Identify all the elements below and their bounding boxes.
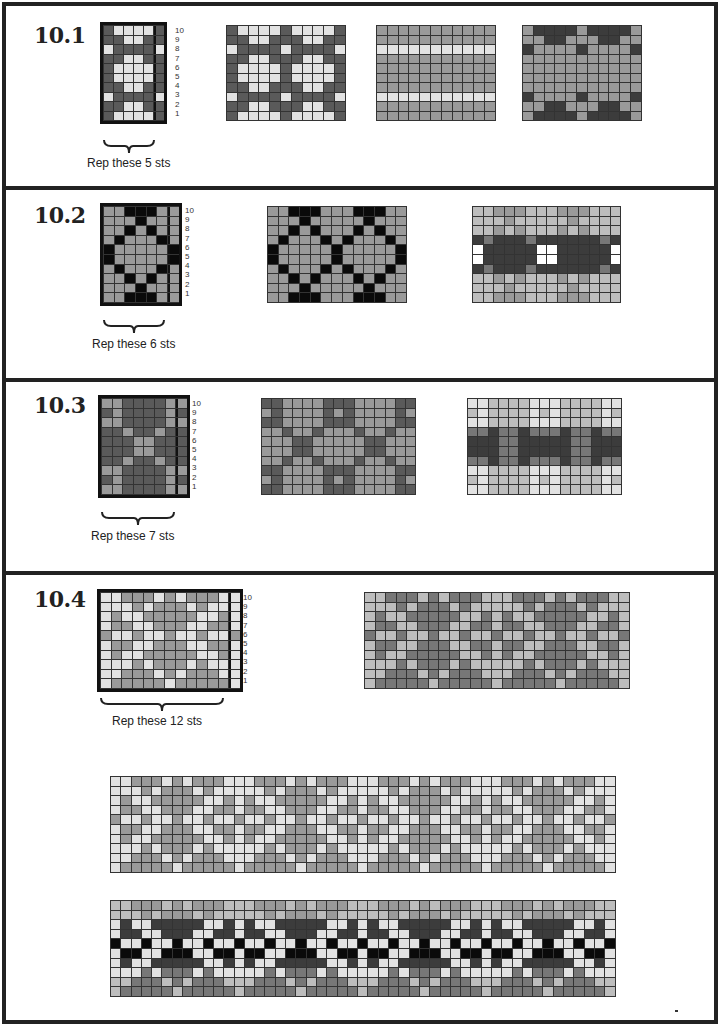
grid-cell — [609, 612, 619, 621]
grid-cell — [442, 74, 452, 83]
grid-cell — [268, 293, 278, 302]
grid-cell — [420, 777, 429, 786]
grid-cell — [513, 806, 522, 815]
grid-cell — [183, 901, 192, 910]
grid-cell — [124, 26, 133, 35]
grid-cell — [227, 74, 237, 83]
grid-cell — [154, 660, 164, 669]
grid-cell — [482, 825, 491, 834]
grid-cell — [581, 466, 590, 475]
grid-cell — [396, 466, 405, 475]
grid-cell — [317, 787, 326, 796]
grid-cell — [489, 457, 498, 466]
grid-cell — [235, 930, 244, 939]
grid-cell — [162, 806, 171, 815]
grid-cell — [283, 437, 292, 446]
grid-cell — [489, 437, 498, 446]
grid-cell — [265, 777, 274, 786]
grid-cell — [219, 593, 229, 602]
grid-cell — [123, 466, 133, 475]
grid-cell — [577, 55, 587, 64]
grid-cell — [499, 399, 508, 408]
grid-cell — [471, 930, 480, 939]
grid-cell — [176, 447, 188, 456]
grid-cell — [484, 226, 494, 235]
grid-cell — [338, 939, 347, 948]
grid-cell — [327, 968, 336, 977]
grid-cell — [478, 476, 487, 485]
grid-cell — [317, 815, 326, 824]
grid-cell — [152, 959, 161, 968]
grid-cell — [338, 844, 347, 853]
grid-cell — [255, 911, 264, 920]
grid-cell — [492, 796, 501, 805]
grid-cell — [577, 612, 587, 621]
grid-cell — [595, 959, 604, 968]
grid-cell — [410, 939, 419, 948]
grid-cell — [396, 255, 406, 264]
grid-cell — [214, 920, 223, 929]
grid-cell — [450, 651, 460, 660]
grid-cell — [555, 83, 565, 92]
grid-cell — [125, 255, 135, 264]
grid-cell — [478, 428, 487, 437]
grid-cell — [461, 901, 470, 910]
grid-cell — [399, 787, 408, 796]
grid-cell — [561, 409, 570, 418]
grid-cell — [397, 612, 407, 621]
grid-cell — [420, 825, 429, 834]
grid-cell — [379, 959, 388, 968]
grid-cell — [335, 36, 345, 45]
grid-cell — [595, 901, 604, 910]
grid-cell — [208, 660, 218, 669]
grid-cell — [540, 437, 549, 446]
grid-cell — [348, 815, 357, 824]
grid-cell — [499, 466, 508, 475]
grid-cell — [409, 93, 419, 102]
grid-cell — [144, 622, 154, 631]
grid-cell — [429, 612, 439, 621]
grid-cell — [300, 236, 310, 245]
grid-cell — [262, 457, 271, 466]
grid-cell — [409, 83, 419, 92]
grid-cell — [513, 863, 522, 872]
grid-cell — [388, 112, 398, 121]
grid-cell — [368, 959, 377, 968]
grid-cell — [276, 806, 285, 815]
grid-cell — [154, 74, 165, 83]
grid-cell — [303, 74, 313, 83]
grid-cell — [376, 651, 386, 660]
grid-cell — [526, 236, 536, 245]
grid-cell — [154, 631, 164, 640]
grid-cell — [545, 631, 555, 640]
grid-cell — [124, 74, 133, 83]
grid-cell — [554, 825, 563, 834]
grid-cell — [281, 83, 291, 92]
grid-cell — [619, 641, 629, 650]
grid-cell — [292, 45, 302, 54]
grid-cell — [270, 102, 280, 111]
grid-cell — [451, 939, 460, 948]
grid-cell — [303, 102, 313, 111]
grid-cell — [162, 777, 171, 786]
grid-cell — [348, 796, 357, 805]
grid-cell — [471, 920, 480, 929]
grid-cell — [193, 911, 202, 920]
grid-cell — [482, 796, 491, 805]
grid-cell — [585, 959, 594, 968]
grid-cell — [579, 226, 589, 235]
grid-cell — [463, 55, 473, 64]
repeat-brace-icon — [100, 697, 224, 713]
grid-cell — [168, 293, 180, 302]
grid-cell — [168, 217, 180, 226]
grid-cell — [144, 64, 153, 73]
grid-cell — [227, 112, 237, 121]
grid-cell — [111, 939, 120, 948]
grid-cell — [450, 670, 460, 679]
grid-cell — [396, 457, 405, 466]
grid-cell — [545, 660, 555, 669]
grid-cell — [344, 399, 353, 408]
grid-cell — [554, 777, 563, 786]
grid-cell — [327, 959, 336, 968]
grid-cell — [122, 603, 132, 612]
